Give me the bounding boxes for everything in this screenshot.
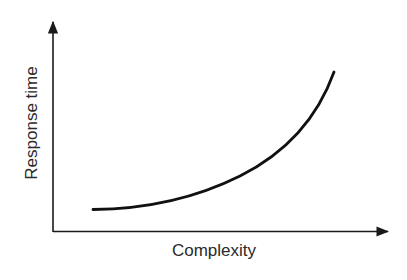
x-axis-label: Complexity bbox=[172, 241, 257, 260]
y-axis-label: Response time bbox=[22, 66, 41, 179]
response-time-curve bbox=[93, 72, 334, 210]
chart: Complexity Response time bbox=[0, 0, 407, 280]
